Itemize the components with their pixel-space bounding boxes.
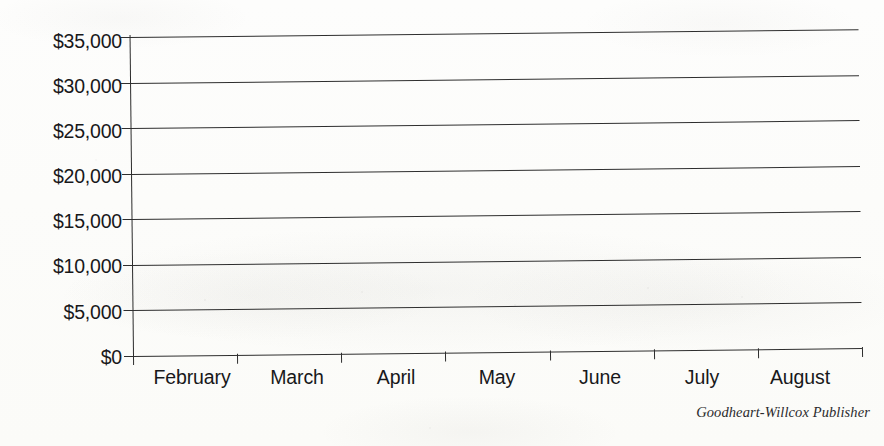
x-label-june: June [579,366,621,389]
publisher-credit: Goodheart-Willcox Publisher [696,404,870,421]
y-tick-label-20000: $20,000 [0,165,122,188]
chart-canvas: $35,000 $30,000 $25,000 $20,000 $15,000 … [0,0,884,446]
y-tick-label-10000: $10,000 [0,255,122,278]
y-tick-label-30000: $30,000 [0,75,122,98]
x-label-august: August [770,366,830,389]
x-label-july: July [685,366,719,389]
y-tick-label-5000: $5,000 [0,301,122,324]
y-tick-label-25000: $25,000 [0,120,122,143]
x-label-february: February [153,366,230,389]
x-label-may: May [479,366,516,389]
x-label-march: March [270,366,324,389]
x-axis-category-labels: February March April May June July Augus… [0,366,884,400]
y-tick-label-35000: $35,000 [0,30,122,53]
y-tick-label-15000: $15,000 [0,210,122,233]
x-label-april: April [377,366,416,389]
